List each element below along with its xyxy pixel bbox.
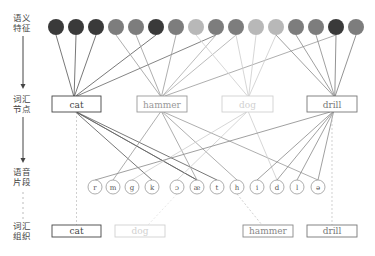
feature-word-edge: [249, 35, 276, 96]
lexical-node-label: drill: [323, 100, 342, 110]
organization-label: drill: [323, 226, 342, 236]
level-label-organization-2: 组织: [13, 231, 31, 241]
semantic-feature-node: [128, 19, 144, 35]
lexical-node-label: dog: [239, 100, 256, 110]
semantic-feature-node: [48, 19, 64, 35]
phoneme-label: ə: [316, 184, 320, 192]
level-label-semantic-1: 语义: [13, 13, 31, 23]
organization-dashed-edges: [77, 112, 333, 225]
semantic-feature-node: [328, 19, 344, 35]
lexical-node-label: hammer: [143, 100, 182, 110]
organization-label: hammer: [249, 226, 288, 236]
phoneme-label: t: [216, 184, 219, 192]
dashed-edge: [148, 194, 177, 225]
down-arrow-icon: [21, 158, 26, 163]
level-label-phonological-1: 语音: [13, 167, 31, 177]
feature-word-edges: [56, 35, 356, 96]
feature-word-edge: [116, 35, 160, 96]
level-label-phonological-2: 片段: [13, 177, 31, 187]
level-label-organization-1: 词汇: [13, 221, 31, 231]
phoneme-label: h: [235, 184, 240, 192]
feature-word-edge: [296, 35, 334, 96]
feature-word-edge: [75, 35, 97, 96]
phoneme-label: d: [275, 184, 280, 192]
semantic-feature-node: [68, 19, 84, 35]
semantic-feature-node: [248, 19, 264, 35]
semantic-feature-node: [228, 19, 244, 35]
word-phoneme-edges: [76, 112, 334, 180]
word-phoneme-edge: [132, 112, 246, 180]
feature-word-edge: [196, 35, 248, 96]
word-phoneme-edge: [113, 112, 161, 180]
feature-word-edge: [77, 35, 216, 96]
level-label-lexical-1: 词汇: [13, 94, 31, 104]
feature-word-edge: [335, 35, 336, 96]
word-phoneme-edge: [77, 112, 218, 180]
semantic-lexical-phonological-diagram: 语义 特征 词汇 节点 语音 片段 词汇 组织 cathammerdogdril…: [0, 0, 375, 256]
semantic-feature-node: [108, 19, 124, 35]
feature-word-edge: [136, 35, 161, 96]
level-label-lexical-2: 节点: [13, 104, 31, 114]
feature-word-edge: [74, 35, 76, 96]
dashed-edge: [237, 194, 262, 225]
semantic-feature-node: [208, 19, 224, 35]
feature-word-edge: [335, 35, 356, 96]
word-phoneme-edge: [277, 112, 333, 180]
semantic-feature-node: [288, 19, 304, 35]
lexical-node-label: cat: [69, 100, 83, 110]
word-phoneme-edge: [248, 112, 277, 180]
semantic-feature-node: [188, 19, 204, 35]
word-phoneme-edge: [162, 112, 237, 180]
lexical-nodes: cathammerdogdrill: [52, 96, 357, 112]
semantic-feature-node: [268, 19, 284, 35]
lexical-organization-boxes: catdoghammerdrill: [52, 225, 357, 237]
semantic-feature-node: [308, 19, 324, 35]
level-label-semantic-2: 特征: [13, 23, 31, 33]
feature-word-edge: [236, 35, 248, 96]
phoneme-label: g: [130, 184, 135, 192]
semantic-feature-node: [88, 19, 104, 35]
feature-word-edge: [165, 35, 336, 96]
word-phoneme-edge: [76, 112, 152, 180]
feature-word-edge: [162, 35, 216, 96]
phoneme-label: æ: [194, 184, 201, 192]
level-labels: 语义 特征 词汇 节点 语音 片段 词汇 组织: [13, 13, 31, 241]
organization-label: dog: [132, 226, 149, 236]
feature-word-edge: [56, 35, 74, 96]
semantic-feature-nodes: [48, 19, 364, 35]
semantic-feature-node: [348, 19, 364, 35]
phoneme-label: m: [110, 184, 117, 192]
feature-word-edge: [76, 35, 156, 96]
phoneme-label: ɔ: [175, 184, 179, 192]
organization-label: cat: [69, 226, 83, 236]
semantic-feature-node: [148, 19, 164, 35]
semantic-feature-node: [168, 19, 184, 35]
word-phoneme-edge: [297, 112, 333, 180]
word-phoneme-edge: [318, 112, 334, 180]
down-arrow-icon: [21, 84, 26, 89]
phoneme-nodes: rmgkɔæthidlə: [88, 180, 325, 194]
